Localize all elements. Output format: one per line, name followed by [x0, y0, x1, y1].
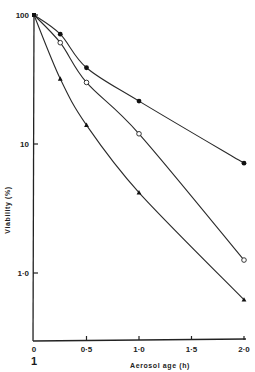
x-tick-label: 1·5 [186, 345, 198, 354]
open-circle-marker [242, 258, 247, 263]
x-tick-label: 1·0 [133, 345, 145, 354]
open-circle-marker [58, 40, 63, 45]
viability-chart: 100101·0 00·51·01·52·0 Aerosol age (h) V… [0, 0, 255, 372]
axes: 100101·0 00·51·01·52·0 [16, 11, 251, 354]
triangle-marker [58, 76, 63, 80]
curve-open-circle [34, 15, 244, 260]
curve-filled-triangle [34, 15, 244, 300]
filled-circle-marker [137, 99, 142, 104]
x-axis-title: Aerosol age (h) [130, 362, 190, 370]
y-axis-title: Viability (%) [4, 186, 12, 233]
filled-circle-marker [84, 65, 89, 70]
y-axis-line [33, 14, 34, 341]
fitted-curves [34, 15, 244, 300]
panel-label: 1 [31, 355, 37, 367]
y-ticks: 100101·0 [16, 11, 38, 278]
y-tick-label: 10 [20, 140, 29, 149]
x-tick-label: 2·0 [238, 345, 250, 354]
y-tick-label: 100 [16, 11, 30, 20]
x-tick-label: 0 [32, 345, 37, 354]
y-tick-label: 1·0 [17, 269, 29, 278]
x-tick-label: 0·5 [81, 345, 93, 354]
origin-marker [32, 13, 36, 17]
filled-circle-marker [58, 32, 63, 37]
open-circle-marker [84, 80, 89, 85]
data-markers [32, 13, 246, 302]
open-circle-marker [137, 131, 142, 136]
filled-circle-marker [242, 161, 247, 166]
